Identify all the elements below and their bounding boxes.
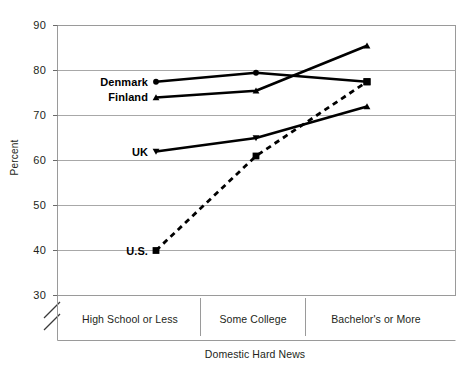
series-us-marker xyxy=(364,78,371,85)
x-category-label-0: High School or Less xyxy=(60,313,200,325)
series-us-line xyxy=(156,82,367,251)
y-tick-marks xyxy=(53,26,58,296)
series-finland xyxy=(153,42,371,100)
series-label-uk: UK xyxy=(60,146,148,158)
series-denmark-marker xyxy=(253,70,259,76)
series-uk xyxy=(153,103,371,155)
series-label-finland: Finland xyxy=(60,91,148,103)
series-us-marker xyxy=(153,247,160,254)
x-category-label-1: Some College xyxy=(201,313,305,325)
y-tick-label-30: 30 xyxy=(20,290,46,301)
series-denmark-line xyxy=(156,73,367,82)
y-tick-label-80: 80 xyxy=(20,65,46,76)
series-us xyxy=(153,78,371,254)
y-tick-label-70: 70 xyxy=(20,110,46,121)
series-us-marker xyxy=(253,153,260,160)
series-uk-line xyxy=(156,107,367,152)
series-label-denmark: Denmark xyxy=(60,76,148,88)
y-axis-title: Percent xyxy=(9,128,20,188)
x-axis-title: Domestic Hard News xyxy=(55,348,455,360)
y-tick-label-90: 90 xyxy=(20,20,46,31)
y-tick-label-60: 60 xyxy=(20,155,46,166)
x-category-label-2: Bachelor's or More xyxy=(306,313,446,325)
series-label-us: U.S. xyxy=(60,245,148,257)
y-tick-label-40: 40 xyxy=(20,245,46,256)
series-finland-line xyxy=(156,46,367,98)
series-denmark xyxy=(153,70,371,86)
series-denmark-marker xyxy=(153,79,159,85)
y-tick-label-50: 50 xyxy=(20,200,46,211)
chart-container: 90 80 70 60 50 40 30 Percent Denmark Fin… xyxy=(0,0,473,371)
